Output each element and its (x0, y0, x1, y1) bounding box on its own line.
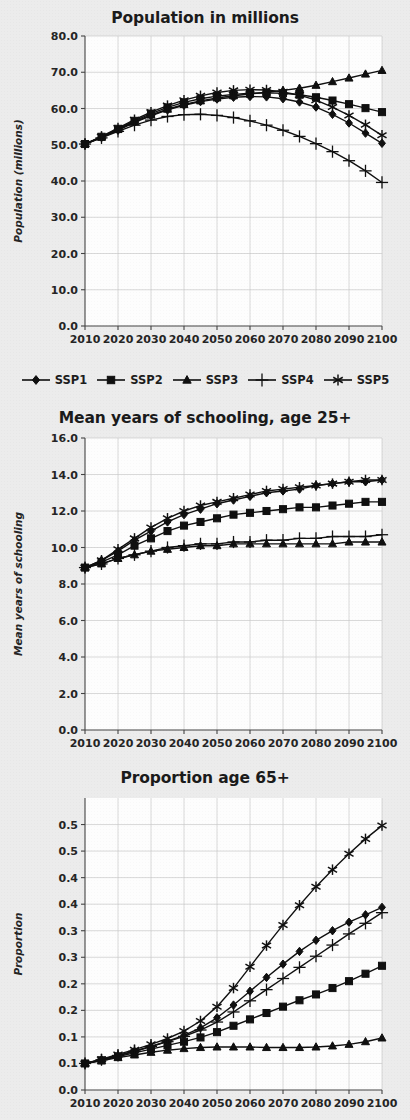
x-axis-tick-label: 2100 (367, 737, 398, 750)
x-axis-tick-label: 2100 (367, 333, 398, 346)
chart-title-population: Population in millions (0, 0, 410, 28)
y-axis-tick-label: 0.5 (59, 845, 79, 858)
y-axis-tick-label: 12.0 (51, 505, 78, 518)
chart-title-schooling: Mean years of schooling, age 25+ (0, 400, 410, 428)
x-axis-tick-label: 2010 (70, 737, 101, 750)
legend-label: SSP3 (206, 373, 238, 387)
legend-label: SSP4 (281, 373, 313, 387)
x-axis-tick-label: 2020 (103, 737, 134, 750)
x-axis-tick-label: 2070 (268, 1097, 299, 1110)
x-axis-tick-label: 2080 (301, 737, 332, 750)
y-axis-tick-label: 0.4 (59, 898, 79, 911)
y-axis-tick-label: 0.2 (59, 978, 79, 991)
chart-panel-schooling: Mean years of schooling, age 25+ 0.02.04… (0, 400, 410, 760)
y-axis-tick-label: 14.0 (51, 469, 78, 482)
y-axis-tick-label: 4.0 (59, 651, 79, 664)
legend-label: SSP2 (130, 373, 162, 387)
legend-row: SSP1SSP2SSP3SSP4SSP5 (0, 355, 410, 402)
legend-entry-ssp4[interactable]: SSP4 (247, 372, 313, 388)
chart-title-proportion: Proportion age 65+ (0, 760, 410, 788)
x-axis-tick-label: 2030 (136, 737, 167, 750)
y-axis-tick-label: 50.0 (51, 139, 78, 152)
y-axis-tick-label: 0.2 (59, 1004, 79, 1017)
x-axis-tick-label: 2030 (136, 1097, 167, 1110)
y-axis-tick-label: 0.0 (59, 320, 79, 333)
y-axis-tick-label: 0.1 (59, 1057, 79, 1070)
x-axis-tick-label: 2030 (136, 333, 167, 346)
figure-page: Population in millions 0.010.020.030.040… (0, 0, 410, 1120)
y-axis-tick-label: 20.0 (51, 248, 78, 261)
y-axis-title: Mean years of schooling (12, 512, 24, 656)
chart-svg-schooling: 0.02.04.06.08.010.012.014.016.0201020202… (0, 428, 410, 756)
x-axis-tick-label: 2090 (334, 1097, 365, 1110)
chart-panel-population: Population in millions 0.010.020.030.040… (0, 0, 410, 355)
y-axis-tick-label: 30.0 (51, 211, 78, 224)
legend-label: SSP1 (55, 373, 87, 387)
x-axis-tick-label: 2060 (235, 333, 266, 346)
x-axis-tick-label: 2080 (301, 333, 332, 346)
chart-svg-population: 0.010.020.030.040.050.060.070.080.020102… (0, 28, 410, 350)
x-axis-tick-label: 2060 (235, 1097, 266, 1110)
x-axis-tick-label: 2090 (334, 737, 365, 750)
legend-label: SSP5 (357, 373, 389, 387)
legend-entry-ssp5[interactable]: SSP5 (323, 372, 389, 388)
y-axis-tick-label: 40.0 (51, 175, 78, 188)
y-axis-tick-label: 10.0 (51, 542, 78, 555)
x-axis-tick-label: 2020 (103, 333, 134, 346)
x-axis-tick-label: 2010 (70, 333, 101, 346)
y-axis-tick-label: 80.0 (51, 30, 78, 43)
y-axis-tick-label: 0.3 (59, 951, 79, 964)
y-axis-tick-label: 0.4 (59, 872, 79, 885)
x-axis-tick-label: 2050 (202, 333, 233, 346)
x-axis-tick-label: 2060 (235, 737, 266, 750)
y-axis-title: Population (millions) (12, 119, 24, 242)
x-axis-tick-label: 2010 (70, 1097, 101, 1110)
chart-canvas-population: 0.010.020.030.040.050.060.070.080.020102… (0, 28, 410, 350)
y-axis-tick-label: 10.0 (51, 284, 78, 297)
chart-svg-proportion: 0.00.10.10.20.20.30.30.40.40.50.52010202… (0, 788, 410, 1116)
legend-entry-ssp3[interactable]: SSP3 (172, 372, 238, 388)
x-axis-tick-label: 2050 (202, 737, 233, 750)
y-axis-tick-label: 6.0 (59, 615, 79, 628)
y-axis-tick-label: 8.0 (59, 578, 79, 591)
legend-marker-plus-icon (247, 372, 277, 388)
y-axis-tick-label: 2.0 (59, 688, 79, 701)
y-axis-tick-label: 0.5 (59, 819, 79, 832)
legend-marker-diamond-icon (21, 372, 51, 388)
y-axis-tick-label: 0.1 (59, 1031, 79, 1044)
x-axis-tick-label: 2070 (268, 333, 299, 346)
x-axis-tick-label: 2070 (268, 737, 299, 750)
legend-marker-asterisk-icon (323, 372, 353, 388)
legend-marker-square-icon (96, 372, 126, 388)
x-axis-tick-label: 2090 (334, 333, 365, 346)
legend-marker-triangle-icon (172, 372, 202, 388)
x-axis-tick-label: 2040 (169, 333, 200, 346)
chart-legend: SSP1SSP2SSP3SSP4SSP5 (0, 355, 410, 400)
chart-panel-proportion: Proportion age 65+ 0.00.10.10.20.20.30.3… (0, 760, 410, 1120)
x-axis-tick-label: 2040 (169, 737, 200, 750)
x-axis-tick-label: 2050 (202, 1097, 233, 1110)
x-axis-tick-label: 2020 (103, 1097, 134, 1110)
chart-canvas-proportion: 0.00.10.10.20.20.30.30.40.40.50.52010202… (0, 788, 410, 1116)
legend-entry-ssp1[interactable]: SSP1 (21, 372, 87, 388)
chart-canvas-schooling: 0.02.04.06.08.010.012.014.016.0201020202… (0, 428, 410, 756)
y-axis-tick-label: 0.0 (59, 1084, 79, 1097)
legend-entry-ssp2[interactable]: SSP2 (96, 372, 162, 388)
y-axis-tick-label: 0.0 (59, 724, 79, 737)
y-axis-tick-label: 0.3 (59, 925, 79, 938)
y-axis-tick-label: 70.0 (51, 66, 78, 79)
y-axis-title: Proportion (12, 913, 24, 976)
x-axis-tick-label: 2040 (169, 1097, 200, 1110)
y-axis-tick-label: 16.0 (51, 432, 78, 445)
x-axis-tick-label: 2100 (367, 1097, 398, 1110)
y-axis-tick-label: 60.0 (51, 103, 78, 116)
x-axis-tick-label: 2080 (301, 1097, 332, 1110)
